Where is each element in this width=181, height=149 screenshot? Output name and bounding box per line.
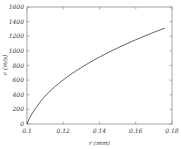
chart-figure: 0.10.120.140.160.18 02004006008001000120…: [0, 0, 181, 149]
y-tick-label: 0: [20, 120, 24, 127]
x-tick-label: 0.18: [165, 127, 179, 134]
y-tick-label: 1400: [9, 18, 24, 25]
y-tick-label: 800: [13, 62, 25, 69]
chart-canvas: 0.10.120.140.160.18 02004006008001000120…: [0, 0, 181, 149]
x-tick-label: 0.16: [129, 127, 143, 134]
y-tick-label: 600: [13, 76, 25, 83]
y-tick-label: 400: [12, 91, 25, 98]
y-tick-label: 1600: [9, 3, 24, 10]
x-tick-label: 0.12: [57, 127, 71, 134]
y-axis-title: v (m/s): [1, 54, 8, 75]
x-tick-label: 0.1: [22, 127, 32, 134]
x-tick-label: 0.14: [93, 127, 107, 134]
y-tick-label: 1200: [9, 32, 24, 39]
y-tick-label: 1000: [9, 47, 24, 54]
x-axis-title: r (mm): [89, 139, 110, 146]
y-tick-label: 200: [12, 105, 25, 112]
